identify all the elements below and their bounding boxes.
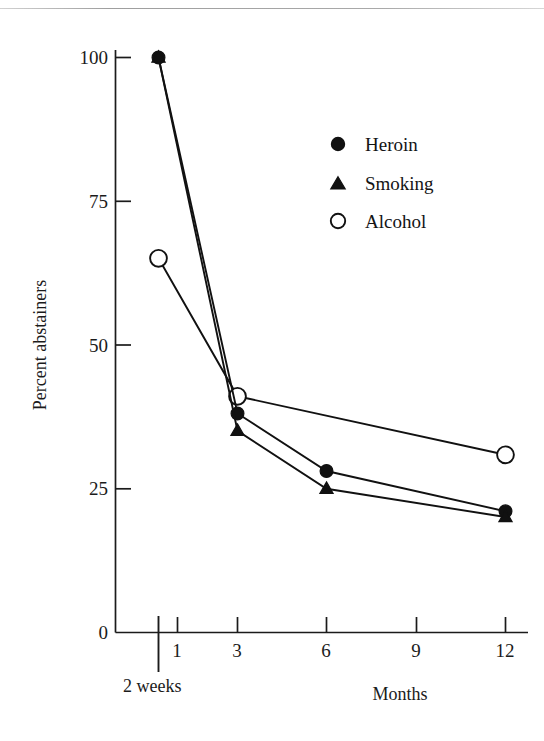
legend-item-alcohol[interactable]: Alcohol (331, 211, 426, 232)
y-axis-tick-labels: 100 75 50 25 0 (80, 47, 109, 643)
figure-page: 100 75 50 25 0 1 3 6 9 12 2 weeks Months… (0, 0, 544, 741)
open-circle-icon (331, 214, 345, 228)
x-tick-label-9: 9 (411, 640, 421, 661)
legend: Heroin Smoking Alcohol (331, 134, 434, 232)
data-point-heroin-6mo (320, 465, 333, 478)
x-tick-label-6: 6 (321, 640, 331, 661)
y-tick-label-75: 75 (89, 191, 108, 212)
x-axis-tick-labels: 1 3 6 9 12 (172, 640, 514, 661)
legend-item-heroin[interactable]: Heroin (331, 134, 418, 155)
x-tick-label-3: 3 (232, 640, 242, 661)
x-axis-ticks (159, 616, 506, 672)
legend-label-heroin: Heroin (365, 134, 418, 155)
filled-circle-icon (331, 137, 344, 150)
legend-label-alcohol: Alcohol (365, 211, 426, 232)
y-tick-label-0: 0 (99, 622, 109, 643)
y-tick-label-50: 50 (89, 335, 108, 356)
y-tick-label-25: 25 (89, 478, 108, 499)
x-tick-label-1: 1 (172, 640, 182, 661)
x-axis-note-2-weeks: 2 weeks (123, 676, 181, 696)
y-axis-ticks (116, 58, 132, 489)
series-alcohol (150, 250, 514, 463)
data-point-smoking-6mo (320, 482, 333, 494)
line-chart: 100 75 50 25 0 1 3 6 9 12 2 weeks Months… (0, 0, 544, 741)
series-smoking-line (159, 58, 506, 518)
data-point-smoking-3mo (231, 424, 244, 436)
filled-triangle-icon-2 (331, 177, 345, 189)
y-axis-title: Percent abstainers (30, 280, 50, 410)
data-point-alcohol-12mo (497, 446, 514, 463)
series-smoking (152, 51, 512, 522)
axis-group (116, 50, 529, 633)
legend-marker-smoking-shift (331, 177, 345, 189)
x-tick-label-12: 12 (496, 640, 515, 661)
legend-item-smoking[interactable]: Smoking (365, 173, 434, 194)
y-tick-label-100: 100 (80, 47, 109, 68)
legend-label-smoking: Smoking (365, 173, 434, 194)
x-axis-title: Months (372, 684, 427, 704)
data-point-alcohol-2weeks (150, 250, 167, 267)
